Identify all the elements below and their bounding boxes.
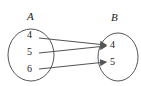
set-b-element: 5 <box>110 56 115 67</box>
set-a-label: A <box>26 10 34 22</box>
mapping-arrow <box>39 62 106 69</box>
set-b-ellipse <box>98 33 138 81</box>
set-a-element: 4 <box>27 29 32 40</box>
mapping-arrow <box>39 46 106 53</box>
set-b-element: 4 <box>110 39 115 50</box>
set-a-element: 5 <box>27 46 32 57</box>
set-a-element: 6 <box>27 63 32 74</box>
set-b-label: B <box>111 11 118 23</box>
mapping-diagram: A B 4 5 6 4 5 <box>0 0 141 86</box>
mapping-arrow <box>39 38 106 45</box>
